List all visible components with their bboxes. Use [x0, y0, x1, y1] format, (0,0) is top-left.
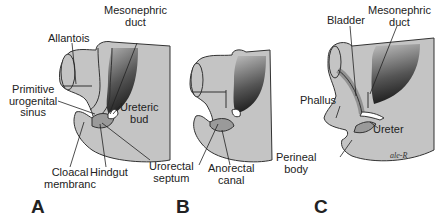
label-urorectal-septum: Urorectal septum: [149, 161, 194, 184]
label-ureter: Ureter: [373, 124, 404, 136]
label-mesonephric-duct-a: Mesonephric duct: [104, 5, 167, 28]
artist-signature: ale-R: [390, 151, 407, 160]
label-primitive-urogenital-sinus: Primitive urogenital sinus: [9, 84, 57, 119]
label-allantois: Allantois: [48, 33, 90, 45]
label-anorectal-canal: Anorectal canal: [208, 163, 254, 186]
label-cloacal-membrane: Cloacal membranc: [44, 167, 96, 190]
label-phallus: Phallus: [300, 95, 336, 107]
panel-letter-c: C: [314, 196, 328, 217]
panel-letter-b: B: [176, 196, 190, 217]
label-bladder: Bladder: [327, 15, 365, 27]
label-perineal-body: Perineal body: [276, 152, 316, 175]
panel-c-embryo: ale-R: [324, 38, 434, 161]
label-hindgut: Hindgut: [90, 167, 128, 179]
panel-letter-a: A: [31, 196, 45, 217]
panel-b-embryo: [190, 50, 272, 162]
label-ureteric-bud: Ureteric bud: [120, 102, 159, 125]
label-mesonephric-duct-c: Mesonephric duct: [368, 5, 431, 28]
